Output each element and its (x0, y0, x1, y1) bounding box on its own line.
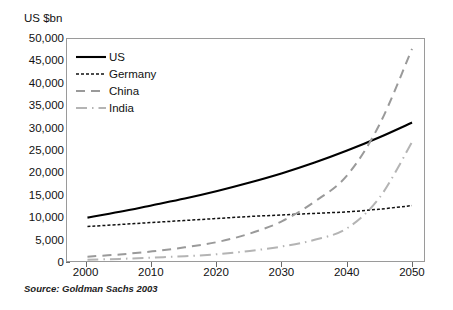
series-line-india (87, 142, 412, 260)
legend-swatch-germany (76, 69, 106, 79)
legend: USGermanyChinaIndia (76, 48, 206, 116)
legend-item-us: US (76, 48, 206, 65)
x-tick-label: 2030 (269, 266, 295, 278)
legend-item-germany: Germany (76, 65, 206, 82)
y-tick-label: 35,000 (29, 99, 64, 111)
x-tick-label: 2040 (334, 266, 360, 278)
x-tick-mark (86, 262, 87, 267)
y-tick-label: 0 (58, 256, 64, 268)
y-tick-label: 30,000 (29, 122, 64, 134)
legend-label: China (109, 85, 139, 97)
legend-swatch-china (76, 86, 106, 96)
y-tick-label: 20,000 (29, 166, 64, 178)
series-line-us (87, 123, 412, 218)
y-tick-label: 15,000 (29, 189, 64, 201)
x-tick-mark (216, 262, 217, 267)
x-tick-label: 2010 (138, 266, 164, 278)
legend-label: US (109, 51, 125, 63)
x-tick-mark (347, 262, 348, 267)
x-tick-label: 2050 (399, 266, 425, 278)
legend-label: Germany (109, 68, 156, 80)
y-tick-label: 5,000 (35, 234, 64, 246)
legend-item-india: India (76, 99, 206, 116)
source-caption: Source: Goldman Sachs 2003 (24, 283, 158, 294)
y-tick-label: 25,000 (29, 144, 64, 156)
x-tick-mark (151, 262, 152, 267)
y-tick-label: 50,000 (29, 32, 64, 44)
x-tick-label: 2020 (203, 266, 229, 278)
y-tick-mark (66, 262, 70, 263)
y-tick-label: 45,000 (29, 54, 64, 66)
y-axis-tick-labels: 50,00045,00040,00035,00030,00025,00020,0… (0, 0, 64, 310)
legend-swatch-india (76, 103, 106, 113)
legend-swatch-us (76, 52, 106, 62)
x-tick-label: 2000 (73, 266, 99, 278)
x-tick-mark (281, 262, 282, 267)
legend-item-china: China (76, 82, 206, 99)
y-tick-label: 10,000 (29, 211, 64, 223)
y-tick-label: 40,000 (29, 77, 64, 89)
chart-figure: US $bn 50,00045,00040,00035,00030,00025,… (0, 0, 453, 310)
legend-label: India (109, 102, 134, 114)
x-tick-mark (412, 262, 413, 267)
